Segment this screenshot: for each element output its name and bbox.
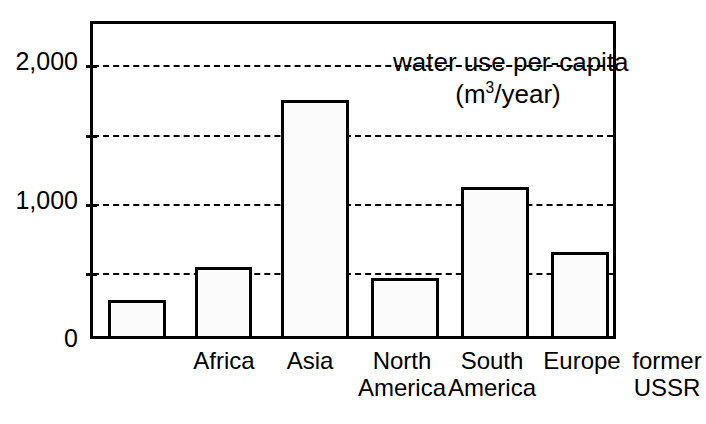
bar-europe (461, 187, 529, 336)
y-tick-1000 (86, 204, 97, 207)
y-axis-label-0: 0 (64, 326, 78, 351)
y-axis-label-1000: 1,000 (15, 188, 78, 213)
chart-title-line2: (m3/year) (393, 78, 623, 110)
bar-asia (195, 267, 252, 336)
bar-north-america (281, 100, 349, 336)
gridline-1000 (93, 204, 613, 206)
bar-former-ussr (551, 252, 609, 336)
chart-title-unit-exponent: 3 (486, 79, 495, 96)
x-axis-label-line2: America (412, 374, 572, 401)
x-axis-label-former-ussr: formerUSSR (587, 347, 706, 401)
chart-title-unit-prefix: (m (455, 79, 485, 109)
gridline-500 (93, 273, 613, 275)
bar-africa (108, 300, 166, 336)
y-tick-2000 (86, 65, 97, 68)
bar-south-america (371, 278, 439, 336)
chart-title-line1: water use per-capita (393, 46, 623, 78)
x-axis-label-line2: USSR (587, 374, 706, 401)
chart-title: water use per-capita (m3/year) (393, 46, 623, 110)
gridline-1500 (93, 135, 613, 137)
x-axis-label-line1: former (587, 347, 706, 374)
y-tick-1500 (86, 135, 97, 138)
plot-frame: water use per-capita (m3/year) (90, 21, 616, 339)
chart-title-unit-suffix: /year) (494, 79, 560, 109)
y-axis-label-2000: 2,000 (15, 49, 78, 74)
y-tick-500 (86, 273, 97, 276)
